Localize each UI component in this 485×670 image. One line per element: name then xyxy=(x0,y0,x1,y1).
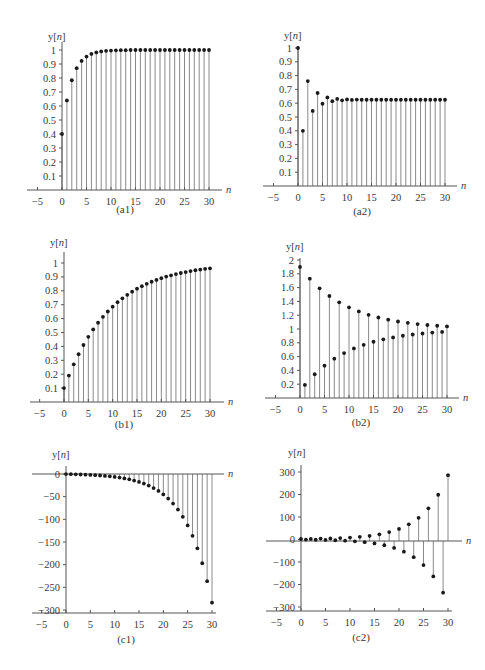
y-tick-label: 0 xyxy=(55,469,60,480)
y-tick-label: 0.8 xyxy=(279,70,292,81)
x-tick-label: −5 xyxy=(268,192,279,203)
caption: (a2) xyxy=(353,205,371,218)
x-tick-label: −5 xyxy=(34,408,45,419)
x-tick-label: −5 xyxy=(32,196,43,207)
y-tick-label: 0.8 xyxy=(43,73,56,84)
y-tick-label: 1.6 xyxy=(281,282,294,293)
x-tick-label: 15 xyxy=(134,619,145,630)
plot-b2: −50510152025300.20.40.60.811.21.41.61.82… xyxy=(265,241,468,429)
y-tick-label: 1.8 xyxy=(281,268,294,279)
y-axis-label: y[n] xyxy=(286,241,304,252)
y-tick-label: 0.3 xyxy=(43,143,56,154)
x-tick-label: 15 xyxy=(368,404,379,415)
x-tick-label: 0 xyxy=(63,619,68,630)
x-tick-label: 30 xyxy=(207,619,218,630)
x-tick-label: 5 xyxy=(86,408,91,419)
y-tick-label: −300 xyxy=(273,602,295,613)
y-tick-label: −100 xyxy=(38,514,60,525)
y-axis-label: y[n] xyxy=(288,447,306,458)
x-tick-label: 0 xyxy=(295,192,300,203)
y-tick-label: 0.3 xyxy=(279,139,292,150)
y-tick-label: 0.4 xyxy=(281,365,295,376)
y-tick-label: 1 xyxy=(287,43,292,54)
x-tick-label: 15 xyxy=(369,617,380,628)
y-tick-label: 0.4 xyxy=(43,129,57,140)
x-tick-label: 10 xyxy=(342,192,353,203)
y-tick-label: 0.6 xyxy=(43,101,56,112)
x-tick-label: 25 xyxy=(415,192,426,203)
stems xyxy=(300,267,447,398)
y-tick-label: −50 xyxy=(44,491,60,502)
x-tick-label: 5 xyxy=(322,404,327,415)
x-tick-label: 20 xyxy=(156,408,167,419)
stem-plot-figure: −50510152025300.10.20.30.40.50.60.70.80.… xyxy=(0,0,485,670)
y-tick-label: 0.2 xyxy=(279,153,292,164)
y-tick-label: 100 xyxy=(279,512,295,523)
y-tick-label: 0.2 xyxy=(281,379,294,390)
y-axis-label: y[n] xyxy=(50,237,68,248)
y-tick-label: 0.1 xyxy=(279,167,292,178)
x-tick-label: 0 xyxy=(297,404,302,415)
caption: (c1) xyxy=(117,633,135,646)
y-axis-label: y[n] xyxy=(52,449,70,460)
x-tick-label: 15 xyxy=(132,408,143,419)
x-tick-label: 10 xyxy=(106,196,117,207)
y-tick-label: 0.4 xyxy=(279,125,293,136)
x-tick-label: 25 xyxy=(180,408,191,419)
stems xyxy=(298,48,445,186)
y-tick-label: 2 xyxy=(289,255,294,266)
y-tick-label: 0.1 xyxy=(43,171,56,182)
x-tick-label: 5 xyxy=(88,619,93,630)
x-tick-label: 30 xyxy=(443,617,454,628)
caption: (b1) xyxy=(115,418,134,431)
y-tick-label: 0.4 xyxy=(45,341,59,352)
x-tick-label: 0 xyxy=(59,196,64,207)
y-tick-label: 300 xyxy=(279,467,295,478)
y-tick-label: 0.9 xyxy=(279,56,292,67)
y-tick-label: 1.4 xyxy=(281,296,295,307)
x-tick-label: 25 xyxy=(417,404,428,415)
caption: (b2) xyxy=(352,416,371,429)
y-tick-label: 0.1 xyxy=(45,383,58,394)
x-tick-label: 25 xyxy=(179,196,190,207)
stems xyxy=(66,474,212,603)
x-tick-label: 5 xyxy=(84,196,89,207)
x-tick-label: 0 xyxy=(298,617,303,628)
y-tick-label: 0.6 xyxy=(279,98,292,109)
y-tick-label: 0.5 xyxy=(45,327,58,338)
x-tick-label: 25 xyxy=(182,619,193,630)
x-tick-label: 20 xyxy=(155,196,166,207)
y-tick-label: 1.2 xyxy=(281,310,294,321)
plot-a2: −50510152025300.10.20.30.40.50.60.70.80.… xyxy=(263,30,466,218)
x-tick-label: 10 xyxy=(345,617,356,628)
y-tick-label: −200 xyxy=(273,579,295,590)
y-tick-label: 0.2 xyxy=(43,157,56,168)
x-axis-label: n xyxy=(228,468,233,479)
y-tick-label: 0.5 xyxy=(279,112,292,123)
y-tick-label: −150 xyxy=(38,537,60,548)
y-tick-label: 0 xyxy=(290,534,295,545)
x-axis-label: n xyxy=(228,396,233,407)
x-tick-label: 10 xyxy=(344,404,355,415)
x-axis-label: n xyxy=(463,392,468,403)
x-tick-label: −5 xyxy=(271,617,282,628)
stems xyxy=(301,475,448,592)
y-tick-label: 0.8 xyxy=(281,337,294,348)
y-tick-label: 0.9 xyxy=(43,59,56,70)
x-tick-label: 30 xyxy=(442,404,453,415)
x-tick-label: 20 xyxy=(393,404,404,415)
x-tick-label: 30 xyxy=(440,192,451,203)
x-tick-label: −5 xyxy=(36,619,47,630)
x-tick-label: −5 xyxy=(270,404,281,415)
y-tick-label: 200 xyxy=(279,489,295,500)
x-tick-label: 20 xyxy=(394,617,405,628)
y-tick-label: −300 xyxy=(38,605,60,616)
y-tick-label: 1 xyxy=(53,258,58,269)
x-axis-label: n xyxy=(226,184,231,195)
y-tick-label: 0.7 xyxy=(279,84,292,95)
markers xyxy=(299,473,450,594)
y-tick-label: 0.7 xyxy=(43,87,56,98)
x-tick-label: 5 xyxy=(320,192,325,203)
x-tick-label: 30 xyxy=(204,196,215,207)
x-tick-label: 30 xyxy=(205,408,216,419)
